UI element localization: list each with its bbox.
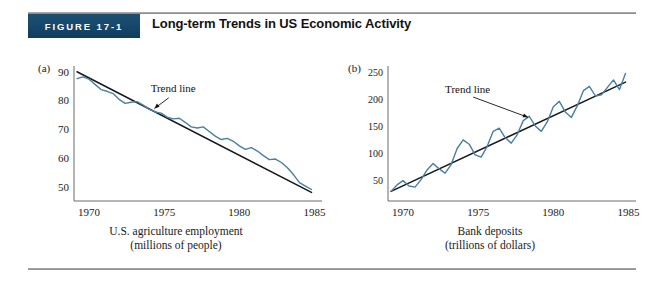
chart-panel-a: (a) 50607080901970197519801985Trend line… bbox=[18, 58, 334, 274]
x-tick-label: 1985 bbox=[617, 206, 640, 218]
y-tick-label: 60 bbox=[58, 152, 70, 164]
y-tick-label: 50 bbox=[58, 181, 70, 193]
caption-a: U.S. agriculture employment (millions of… bbox=[18, 224, 334, 252]
annotation-leader-line bbox=[473, 97, 528, 117]
y-tick-label: 100 bbox=[368, 148, 383, 159]
caption-a-line1: U.S. agriculture employment bbox=[18, 224, 334, 238]
chart-plot-b: 501001502002501970197519801985Trend line bbox=[330, 58, 650, 224]
x-tick-label: 1980 bbox=[228, 206, 251, 218]
caption-b: Bank deposits (trillions of dollars) bbox=[330, 224, 650, 252]
figure-title: Long-term Trends in US Economic Activity bbox=[152, 16, 411, 31]
chart-panel-b: (b) 501001502002501970197519801985Trend … bbox=[330, 58, 650, 274]
annotation-arrow-icon bbox=[154, 104, 159, 109]
caption-b-line2: (trillions of dollars) bbox=[330, 238, 650, 252]
data-series-path bbox=[391, 74, 625, 192]
y-tick-label: 200 bbox=[368, 94, 383, 105]
footer-divider bbox=[28, 268, 636, 270]
x-tick-label: 1970 bbox=[392, 206, 415, 218]
caption-b-line1: Bank deposits bbox=[330, 224, 650, 238]
figure-root: Figure 17-1 Long-term Trends in US Econo… bbox=[0, 0, 664, 284]
caption-a-line2: (millions of people) bbox=[18, 238, 334, 252]
y-tick-label: 70 bbox=[58, 123, 70, 135]
y-tick-label: 150 bbox=[368, 121, 383, 132]
annotation-label: Trend line bbox=[151, 82, 196, 94]
y-tick-label: 250 bbox=[368, 67, 383, 78]
x-tick-label: 1980 bbox=[542, 206, 565, 218]
x-tick-label: 1970 bbox=[78, 206, 101, 218]
trend-line-path bbox=[391, 82, 625, 191]
x-tick-label: 1975 bbox=[153, 206, 176, 218]
x-tick-label: 1975 bbox=[467, 206, 490, 218]
y-tick-label: 90 bbox=[58, 66, 70, 78]
y-tick-label: 50 bbox=[373, 175, 383, 186]
y-tick-label: 80 bbox=[58, 94, 70, 106]
figure-number-badge: Figure 17-1 bbox=[28, 14, 140, 38]
annotation-label: Trend line bbox=[445, 83, 490, 95]
chart-plot-a: 50607080901970197519801985Trend line bbox=[18, 58, 334, 224]
x-tick-label: 1985 bbox=[303, 206, 326, 218]
figure-number-label: Figure 17-1 bbox=[45, 21, 123, 32]
annotation-arrow-icon bbox=[523, 114, 528, 118]
